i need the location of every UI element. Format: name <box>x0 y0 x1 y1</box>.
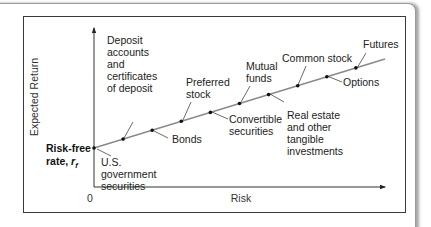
leader-line <box>97 149 111 156</box>
point-label-line: of deposit <box>107 82 153 94</box>
point-label-line: stock <box>186 88 211 100</box>
point-label: Convertiblesecurities <box>229 113 282 137</box>
risk-free-label: Risk-free rate, rf <box>46 142 94 170</box>
point-label: Options <box>343 76 379 88</box>
leader-line <box>124 122 133 138</box>
point-label: Common stock <box>282 52 353 64</box>
x-axis-label: Risk <box>231 192 252 204</box>
point-marker <box>325 75 329 79</box>
leader-line <box>212 112 228 119</box>
point-label-line: government <box>101 168 157 180</box>
leader-line <box>154 131 168 138</box>
point-marker <box>209 111 213 115</box>
point-label-line: certificates <box>107 70 157 82</box>
point-label: Mutualfunds <box>246 60 278 84</box>
risk-free-label-line2: rate, <box>46 155 71 167</box>
point-label-line: securities <box>229 125 273 137</box>
risk-free-subscript: f <box>75 161 79 170</box>
point-marker <box>267 93 271 97</box>
origin-label: 0 <box>87 192 93 204</box>
point-marker <box>92 146 96 150</box>
leader-line <box>241 86 250 102</box>
investment-point: Depositaccountsandcertificatesof deposit <box>107 34 157 141</box>
point-label-line: Deposit <box>107 34 143 46</box>
risk-free-label-line1: Risk-free <box>46 142 91 154</box>
point-label-line: Options <box>343 76 379 88</box>
point-label-line: funds <box>246 72 272 84</box>
investment-points: U.S.governmentsecuritiesDepositaccountsa… <box>92 34 398 192</box>
point-label-line: Real estate <box>287 109 340 121</box>
point-label-line: Bonds <box>172 133 202 145</box>
point-label-line: Convertible <box>229 113 282 125</box>
point-marker <box>354 66 358 70</box>
point-label-line: Common stock <box>282 52 353 64</box>
point-label-line: accounts <box>107 46 149 58</box>
investment-point: Options <box>325 75 379 88</box>
leader-line <box>183 102 191 120</box>
point-label-line: Preferred <box>186 76 230 88</box>
point-marker <box>238 102 242 106</box>
point-label-line: and other <box>287 121 332 133</box>
point-marker <box>296 84 300 88</box>
leader-line <box>270 94 284 102</box>
point-label-line: investments <box>287 145 343 157</box>
leader-line <box>327 76 342 82</box>
point-label: Depositaccountsandcertificatesof deposit <box>107 34 157 94</box>
point-label-line: U.S. <box>101 156 121 168</box>
y-axis-label: Expected Return <box>28 58 40 136</box>
point-label-line: and <box>107 58 125 70</box>
point-label-line: Futures <box>363 38 399 50</box>
point-label-line: securities <box>101 180 145 192</box>
point-label: Futures <box>363 38 399 50</box>
point-marker <box>121 137 125 141</box>
investment-point: Preferredstock <box>180 76 230 123</box>
investment-point: Convertiblesecurities <box>209 111 283 137</box>
investment-point: U.S.governmentsecurities <box>92 146 156 192</box>
leader-line <box>298 66 306 85</box>
investment-point: Futures <box>354 38 399 70</box>
point-label: Bonds <box>172 133 202 145</box>
point-label-line: Mutual <box>246 60 278 72</box>
point-label: Preferredstock <box>186 76 230 100</box>
point-label-line: tangible <box>287 133 324 145</box>
risk-return-diagram: Expected Return Risk 0 Risk-free rate, r… <box>0 0 431 227</box>
point-label: Real estateand othertangibleinvestments <box>287 109 343 157</box>
point-marker <box>180 120 184 124</box>
investment-point: Bonds <box>150 128 201 145</box>
point-marker <box>150 128 154 132</box>
